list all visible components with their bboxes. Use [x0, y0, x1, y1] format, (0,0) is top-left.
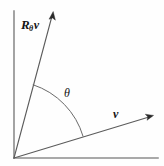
vector-rotation-figure: Rθv θ v: [0, 0, 164, 166]
angle-arc: [33, 85, 83, 136]
angle-label: θ: [64, 87, 70, 99]
rotation-operand-symbol: v: [34, 18, 39, 32]
source-vector-label: v: [113, 108, 118, 120]
rotated-vector-line: [14, 16, 52, 158]
rotated-vector-label: Rθv: [21, 18, 39, 33]
rotated-vector-arrowhead-icon: [49, 12, 55, 21]
rotation-angle-subscript: θ: [29, 24, 33, 33]
source-vector-line: [14, 117, 149, 158]
